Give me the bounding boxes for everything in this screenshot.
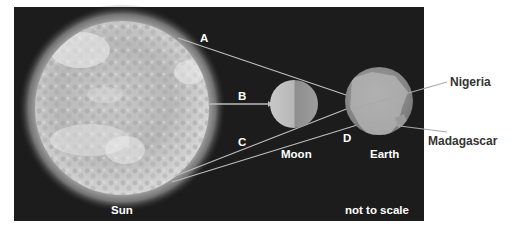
nigeria-label: Nigeria (450, 75, 491, 89)
ray-b-label: B (238, 90, 246, 102)
sun-label: Sun (111, 204, 133, 216)
sun (18, 4, 226, 212)
madagascar-label: Madagascar (428, 134, 498, 148)
earth (345, 67, 413, 138)
ray-c-label: C (238, 136, 246, 148)
moon-label: Moon (281, 148, 312, 160)
earth-label: Earth (370, 148, 399, 160)
ray-d-label: D (343, 132, 351, 144)
ray-a-label: A (200, 32, 208, 44)
moon (270, 80, 318, 128)
scale-note: not to scale (345, 204, 409, 216)
eclipse-diagram: A B C D Moon Earth Sun not to scale Nige… (0, 0, 521, 235)
